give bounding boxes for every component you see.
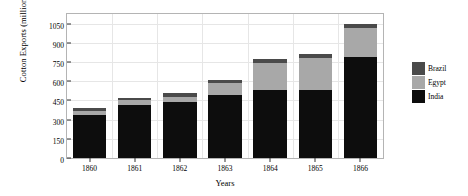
gridline-vertical [112, 14, 113, 158]
bar-segment-brazil[interactable] [344, 24, 377, 28]
bar-segment-egypt[interactable] [73, 111, 106, 115]
plot-area: 01503004506007509001050 1860186118621863… [66, 13, 384, 159]
gridline-horizontal [67, 24, 383, 25]
bar-segment-india[interactable] [208, 95, 241, 158]
x-axis-title: Years [66, 178, 384, 188]
y-axis-tick: 900 [53, 34, 67, 52]
chart-figure: Cotton Exports (millions lbs) 0150300450… [0, 0, 468, 196]
y-axis-tick-label: 1050 [49, 22, 67, 31]
x-axis-tick-mark [225, 158, 226, 162]
x-axis-tick-mark [270, 158, 271, 162]
x-axis-tick-mark [179, 158, 180, 162]
y-axis-tick: 600 [53, 72, 67, 90]
x-axis-tick-mark [315, 158, 316, 162]
y-axis-tick: 0 [60, 149, 67, 167]
bar-segment-india[interactable] [344, 57, 377, 158]
legend-swatch [412, 62, 425, 75]
bar-1863[interactable] [208, 80, 241, 158]
bar-segment-brazil[interactable] [253, 59, 286, 62]
x-axis-tick-mark [360, 158, 361, 162]
y-axis-tick-mark [67, 62, 71, 63]
bar-segment-india[interactable] [299, 90, 332, 158]
bar-segment-brazil[interactable] [163, 93, 196, 96]
y-axis-tick-mark [67, 158, 71, 159]
y-axis-tick-mark [67, 100, 71, 101]
y-axis-tick-mark [67, 119, 71, 120]
legend-item-brazil[interactable]: Brazil [412, 62, 446, 75]
y-axis-tick-label: 600 [53, 79, 67, 88]
y-axis-tick-label: 0 [60, 156, 67, 165]
x-axis-tick-mark [134, 158, 135, 162]
bar-1861[interactable] [118, 98, 151, 158]
gridline-vertical [248, 14, 249, 158]
bar-segment-brazil[interactable] [73, 108, 106, 111]
legend: BrazilEgyptIndia [412, 62, 446, 103]
legend-item-egypt[interactable]: Egypt [412, 76, 446, 89]
x-axis-tick-label: 1864 [263, 164, 278, 173]
bar-segment-egypt[interactable] [299, 58, 332, 91]
legend-swatch [412, 76, 425, 89]
bar-segment-brazil[interactable] [208, 80, 241, 83]
x-axis-tick: 1864 [263, 158, 278, 173]
x-axis-tick: 1861 [127, 158, 142, 173]
legend-label: Egypt [428, 78, 446, 87]
bar-segment-india[interactable] [73, 115, 106, 159]
x-axis-tick: 1866 [353, 158, 368, 173]
x-axis-tick-mark [89, 158, 90, 162]
bar-segment-brazil[interactable] [299, 54, 332, 57]
gridline-vertical [338, 14, 339, 158]
bar-1860[interactable] [73, 108, 106, 158]
y-axis-tick: 450 [53, 91, 67, 109]
legend-item-india[interactable]: India [412, 90, 446, 103]
bar-segment-india[interactable] [118, 105, 151, 158]
y-axis-title: Cotton Exports (millions lbs) [18, 0, 28, 106]
y-axis-tick-mark [67, 23, 71, 24]
gridline-horizontal [67, 62, 383, 63]
bar-1865[interactable] [299, 54, 332, 158]
bar-1866[interactable] [344, 24, 377, 158]
bar-1864[interactable] [253, 59, 286, 158]
x-axis-tick-label: 1865 [308, 164, 323, 173]
y-axis-tick-label: 300 [53, 118, 67, 127]
gridline-horizontal [67, 43, 383, 44]
x-axis-tick-label: 1861 [127, 164, 142, 173]
x-axis-tick: 1860 [82, 158, 97, 173]
bar-segment-brazil[interactable] [118, 98, 151, 100]
bar-1862[interactable] [163, 93, 196, 158]
x-axis-tick: 1865 [308, 158, 323, 173]
y-axis-tick: 750 [53, 53, 67, 71]
y-axis-tick-mark [67, 42, 71, 43]
bar-segment-egypt[interactable] [118, 100, 151, 105]
y-axis-tick: 1050 [49, 15, 67, 33]
x-axis-tick-label: 1860 [82, 164, 97, 173]
y-axis-tick-mark [67, 138, 71, 139]
gridline-vertical [157, 14, 158, 158]
legend-label: Brazil [428, 64, 446, 73]
y-axis-tick-label: 900 [53, 41, 67, 50]
x-axis-tick: 1863 [218, 158, 233, 173]
bar-segment-egypt[interactable] [163, 97, 196, 102]
legend-label: India [428, 92, 443, 101]
x-axis-tick: 1862 [172, 158, 187, 173]
y-axis-tick: 300 [53, 111, 67, 129]
legend-swatch [412, 90, 425, 103]
bar-segment-egypt[interactable] [253, 63, 286, 91]
gridline-vertical [202, 14, 203, 158]
x-axis-tick-label: 1863 [218, 164, 233, 173]
x-axis-tick-label: 1866 [353, 164, 368, 173]
y-axis-tick-mark [67, 81, 71, 82]
y-axis-tick: 150 [53, 130, 67, 148]
gridline-vertical [293, 14, 294, 158]
y-axis-tick-label: 750 [53, 60, 67, 69]
y-axis-tick-label: 150 [53, 137, 67, 146]
y-axis-tick-label: 450 [53, 98, 67, 107]
bar-segment-india[interactable] [163, 102, 196, 158]
x-axis-tick-label: 1862 [172, 164, 187, 173]
bar-segment-egypt[interactable] [208, 83, 241, 95]
bar-segment-india[interactable] [253, 90, 286, 158]
bar-segment-egypt[interactable] [344, 28, 377, 57]
